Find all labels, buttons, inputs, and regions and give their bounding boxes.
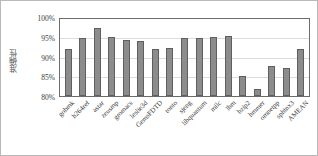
bar [123, 40, 130, 96]
bar [283, 68, 290, 96]
x-label-slot: libquantum [192, 97, 207, 155]
bar-slot [61, 19, 76, 96]
bar [210, 37, 217, 96]
bar-slot [134, 19, 149, 96]
x-label-slot: lbm [221, 97, 236, 155]
bar-slot [119, 19, 134, 96]
bar [137, 41, 144, 96]
bar-series [60, 19, 309, 96]
y-axis-tick-label: 85% [41, 73, 55, 82]
x-label-slot: hmmer [250, 97, 265, 155]
bar-slot [294, 19, 309, 96]
x-label-slot: sphinx3 [280, 97, 295, 155]
bar [166, 48, 173, 97]
bar-slot [206, 19, 221, 96]
bar [225, 36, 232, 96]
y-axis-tick-label: 80% [41, 93, 55, 102]
y-axis-title: 准确性 [7, 23, 21, 99]
y-axis-tick-label: 95% [41, 33, 55, 42]
y-axis-tick-labels: 100%95%90%85%80% [23, 18, 57, 97]
bar [108, 37, 115, 96]
plot-area [59, 18, 310, 97]
bar-slot [76, 19, 91, 96]
bar-slot [177, 19, 192, 96]
x-label-slot: milc [206, 97, 221, 155]
bar [254, 89, 261, 96]
bar-slot [279, 19, 294, 96]
bar-slot [148, 19, 163, 96]
x-label-slot: gromacs [119, 97, 134, 155]
y-axis-tick-label: 90% [41, 53, 55, 62]
bar [297, 49, 304, 96]
bar-slot [192, 19, 207, 96]
x-axis-tick-labels: gobmkh264refastarzeusmpgromacsleslie3dGe… [59, 97, 310, 155]
bar [152, 49, 159, 96]
bar-slot [250, 19, 265, 96]
bar-slot [90, 19, 105, 96]
bar-slot [105, 19, 120, 96]
x-label-slot: gobmk [60, 97, 75, 155]
bar-slot [264, 19, 279, 96]
bar [79, 38, 86, 96]
accuracy-bar-chart-figure: 准确性 100%95%90%85%80% gobmkh264refastarze… [0, 0, 318, 156]
y-axis-tick-label: 100% [38, 14, 56, 23]
bar [239, 76, 246, 96]
bar [94, 28, 101, 96]
bar-slot [235, 19, 250, 96]
x-label-slot: AMEAN [294, 97, 309, 155]
bar [65, 49, 72, 96]
x-label-slot: omnetpp [265, 97, 280, 155]
bar-slot [221, 19, 236, 96]
bar [181, 38, 188, 96]
x-label-slot: tonto [162, 97, 177, 155]
x-label-slot: GemsFDTD [148, 97, 163, 155]
x-label-slot: zeusmp [104, 97, 119, 155]
bar [268, 66, 275, 96]
bar-slot [163, 19, 178, 96]
bar [196, 38, 203, 96]
x-label-slot: h264ref [75, 97, 90, 155]
x-label-slot: bzip2 [236, 97, 251, 155]
x-label-slot: astar [89, 97, 104, 155]
